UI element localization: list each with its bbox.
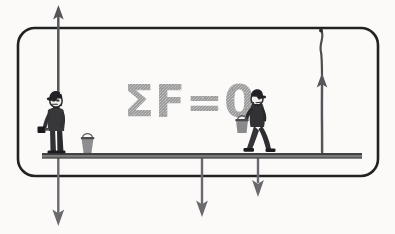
diagram-svg: ΣF=0: [0, 0, 395, 234]
plank-top-edge-overlay: [42, 153, 362, 154]
physics-diagram-canvas: ΣF=0: [0, 0, 395, 234]
